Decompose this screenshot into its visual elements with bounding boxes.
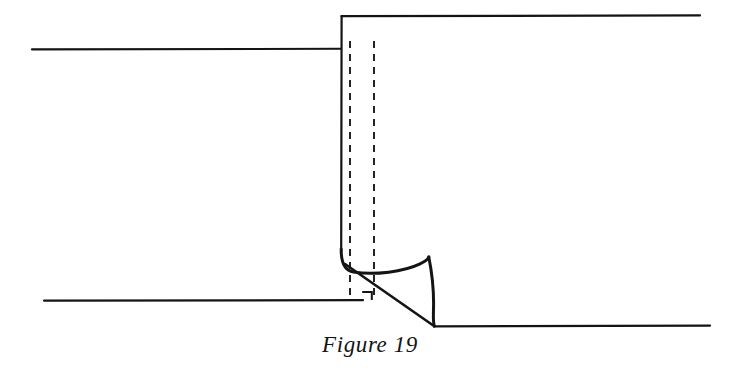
upper-left-surface-line [32, 49, 341, 50]
upper-right-surface-line [342, 15, 701, 16]
right-angle-marker-icon [362, 292, 372, 300]
figure-caption: Figure 19 [0, 332, 740, 358]
figure-container: Figure 19 [0, 0, 740, 381]
chip-outer-edge [429, 257, 435, 326]
lower-right-surface-line [434, 326, 710, 327]
figure-drawing [0, 0, 740, 381]
